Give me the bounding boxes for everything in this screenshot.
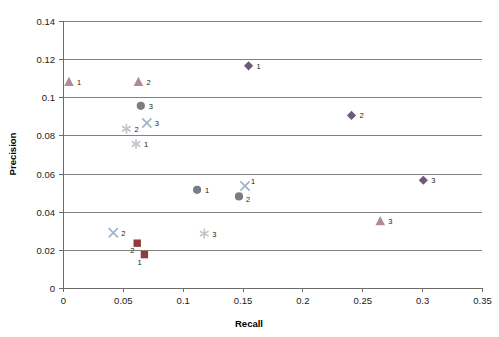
marker-diamond-2 xyxy=(347,111,356,120)
marker-triangle-2 xyxy=(134,77,144,86)
x-tick-label-0: 0 xyxy=(61,295,66,306)
marker-square-1 xyxy=(141,251,148,258)
y-tick-label-0.06: 0.06 xyxy=(37,169,56,180)
marker-triangle-3 xyxy=(375,216,385,225)
x-tick-label-0.35: 0.35 xyxy=(473,295,492,306)
plot-area: 00.050.10.150.20.250.30.35 00.020.040.06… xyxy=(0,0,499,337)
gridlines xyxy=(63,22,482,251)
y-tick-label-0.04: 0.04 xyxy=(37,207,56,218)
point-label-asterisk-2: 2 xyxy=(134,125,138,134)
point-label-asterisk-1: 1 xyxy=(144,140,148,149)
marker-circle-1 xyxy=(193,186,201,194)
marker-x-3 xyxy=(142,118,151,127)
marker-circle-3 xyxy=(137,102,145,110)
x-tick-label-0.3: 0.3 xyxy=(416,295,429,306)
marker-square-2 xyxy=(134,239,141,246)
y-tick-label-0.02: 0.02 xyxy=(37,245,56,256)
x-tick-label-0.05: 0.05 xyxy=(114,295,133,306)
point-label-triangle-3: 3 xyxy=(388,217,392,226)
marker-asterisk-1 xyxy=(132,139,141,149)
y-tick-label-0.14: 0.14 xyxy=(37,16,56,27)
data-markers xyxy=(64,61,428,258)
point-label-diamond-3: 3 xyxy=(431,176,435,185)
y-tick-label-0.12: 0.12 xyxy=(37,54,56,65)
y-axis-title: Precision xyxy=(7,132,18,175)
point-label-x-1: 1 xyxy=(251,177,255,186)
axis-lines xyxy=(63,21,482,289)
x-tick-label-0.25: 0.25 xyxy=(354,295,373,306)
point-label-diamond-1: 1 xyxy=(257,62,261,71)
x-tick-label-0.2: 0.2 xyxy=(296,295,309,306)
point-label-square-1: 1 xyxy=(137,258,141,267)
x-tick-label-0.1: 0.1 xyxy=(177,295,190,306)
y-tick-label-0: 0 xyxy=(50,283,55,294)
point-label-square-2: 2 xyxy=(130,246,134,255)
y-tick-label-0.1: 0.1 xyxy=(42,92,55,103)
marker-asterisk-3 xyxy=(200,229,209,239)
x-tick-label-0.15: 0.15 xyxy=(234,295,253,306)
point-label-x-2: 2 xyxy=(121,229,125,238)
point-label-x-3: 3 xyxy=(155,119,159,128)
point-label-circle-2: 2 xyxy=(246,195,250,204)
marker-x-2 xyxy=(109,228,118,237)
y-tick-label-0.08: 0.08 xyxy=(37,130,56,141)
point-label-diamond-2: 2 xyxy=(360,111,364,120)
marker-x-1 xyxy=(240,181,249,190)
point-label-circle-1: 1 xyxy=(205,186,209,195)
x-axis-title: Recall xyxy=(235,318,263,329)
marker-diamond-1 xyxy=(244,61,253,70)
point-label-asterisk-3: 3 xyxy=(212,230,216,239)
marker-triangle-1 xyxy=(64,77,74,86)
marker-diamond-3 xyxy=(419,176,428,185)
marker-circle-2 xyxy=(235,192,243,200)
x-tick-labels: 00.050.10.150.20.250.30.35 xyxy=(61,295,492,306)
point-label-triangle-2: 2 xyxy=(146,78,150,87)
data-point-labels: 12331232121321123 xyxy=(77,62,436,267)
point-label-circle-3: 3 xyxy=(149,102,153,111)
tick-marks xyxy=(59,22,483,293)
point-label-triangle-1: 1 xyxy=(77,78,81,87)
scatter-chart: 00.050.10.150.20.250.30.35 00.020.040.06… xyxy=(0,0,499,337)
y-tick-labels: 00.020.040.060.080.10.120.14 xyxy=(37,16,56,294)
marker-asterisk-2 xyxy=(122,124,131,134)
